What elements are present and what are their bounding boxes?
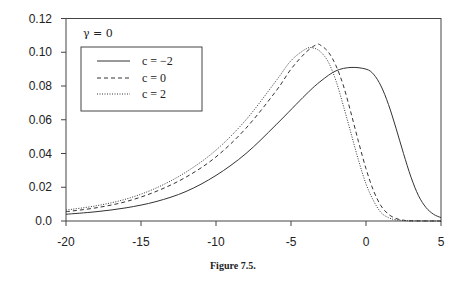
gamma-annotation: γ = 0 [83, 27, 113, 40]
x-tick-label: -5 [286, 235, 297, 249]
y-tick-label: 0.12 [29, 12, 53, 26]
legend-label-c-minus-2: c = −2 [142, 54, 173, 68]
x-tick-label: 0 [363, 235, 370, 249]
y-tick-label: 0.0 [35, 214, 52, 228]
y-tick-label: 0.04 [29, 147, 53, 161]
x-tick-label: -20 [57, 235, 75, 249]
chart: 0.00.020.040.060.080.100.12 -20-15-10-50… [0, 0, 469, 284]
legend: c = −2 c = 0 c = 2 [81, 47, 202, 111]
x-axis-ticks: -20-15-10-505 [57, 221, 444, 249]
legend-label-c-0: c = 0 [142, 71, 166, 85]
y-tick-label: 0.10 [29, 45, 53, 59]
x-tick-label: -10 [207, 235, 225, 249]
figure-caption: Figure 7.5. [210, 260, 256, 271]
legend-label-c-2: c = 2 [142, 87, 166, 101]
y-tick-label: 0.02 [29, 180, 53, 194]
y-tick-label: 0.08 [29, 79, 53, 93]
y-tick-label: 0.06 [29, 113, 53, 127]
x-tick-label: -15 [132, 235, 150, 249]
y-axis-ticks: 0.00.020.040.060.080.100.12 [29, 12, 66, 229]
x-tick-label: 5 [438, 235, 445, 249]
